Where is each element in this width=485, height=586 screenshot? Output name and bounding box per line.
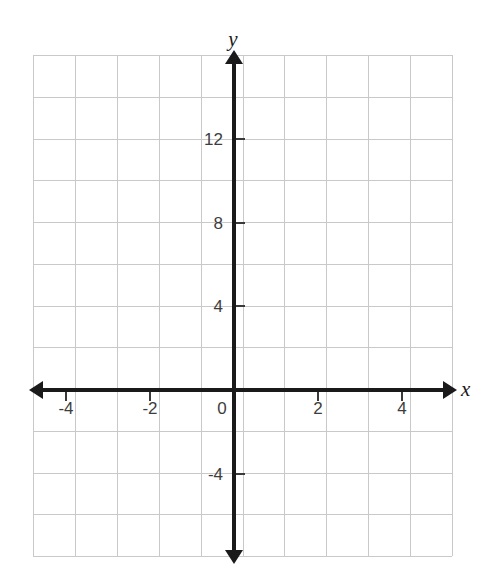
y-axis-tick-label: 4 (214, 298, 223, 315)
y-axis-tick (236, 138, 245, 140)
y-axis-tick (236, 222, 245, 224)
x-axis-tick-label: -4 (58, 400, 73, 417)
y-axis-label: y (228, 29, 237, 50)
origin-label: 0 (217, 400, 226, 417)
y-axis-down-arrow-icon (225, 550, 243, 564)
x-axis-tick-label: 4 (397, 400, 406, 417)
grid-line-horizontal (33, 97, 452, 98)
y-axis-tick-label: -4 (208, 466, 223, 483)
x-axis-label: x (461, 379, 470, 400)
grid-line-vertical (452, 55, 453, 556)
grid-line-horizontal (33, 180, 452, 181)
grid-line-horizontal (33, 431, 452, 432)
x-axis-tick-label: 2 (313, 400, 322, 417)
y-axis-tick-label: 8 (214, 215, 223, 232)
y-axis-tick (236, 473, 245, 475)
y-axis-tick-label: 12 (204, 131, 223, 148)
grid-line-horizontal (33, 264, 452, 265)
grid-line-horizontal (33, 347, 452, 348)
x-axis-tick-label: -2 (142, 400, 157, 417)
grid-line-horizontal (33, 514, 452, 515)
y-axis-tick (236, 305, 245, 307)
coordinate-plane-figure: 1284-4-4-2024 y x (0, 0, 485, 586)
y-axis-up-arrow-icon (225, 50, 243, 64)
x-axis-right-arrow-icon (443, 381, 457, 399)
x-axis-left-arrow-icon (29, 381, 43, 399)
x-axis-line (36, 388, 450, 392)
